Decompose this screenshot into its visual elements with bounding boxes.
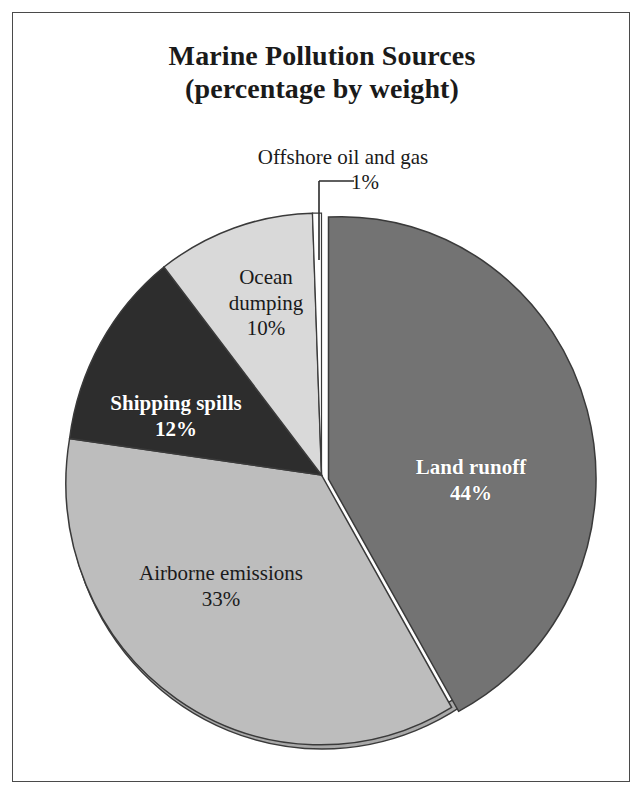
chart-page: Marine Pollution Sources (percentage by … (0, 0, 642, 791)
pie-chart-area: Offshore oil and gas 1% Land runoff 44% … (13, 13, 631, 783)
chart-frame-border: Marine Pollution Sources (percentage by … (12, 12, 630, 782)
pie-chart-graphic (1, 1, 642, 791)
